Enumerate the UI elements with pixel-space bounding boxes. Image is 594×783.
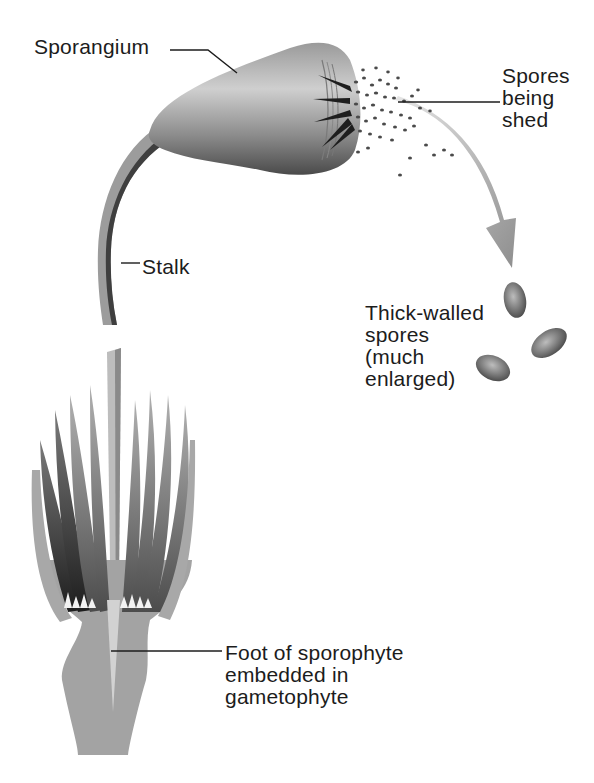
spores-cloud bbox=[354, 67, 454, 177]
label-stalk: Stalk bbox=[142, 256, 190, 278]
sporangium-capsule bbox=[149, 43, 361, 175]
label-spores-being-shed: Spores being shed bbox=[502, 65, 570, 131]
label-foot-of-sporophyte: Foot of sporophyte embedded in gametophy… bbox=[225, 642, 404, 708]
label-sporangium: Sporangium bbox=[34, 36, 149, 58]
stalk-upper bbox=[98, 125, 170, 325]
leader-sporangium bbox=[170, 50, 237, 73]
diagram-stage: Sporangium Spores being shed Stalk Thick… bbox=[0, 0, 594, 783]
enlarged-spores bbox=[472, 280, 573, 386]
label-thick-walled-spores: Thick-walled spores (much enlarged) bbox=[365, 302, 484, 390]
